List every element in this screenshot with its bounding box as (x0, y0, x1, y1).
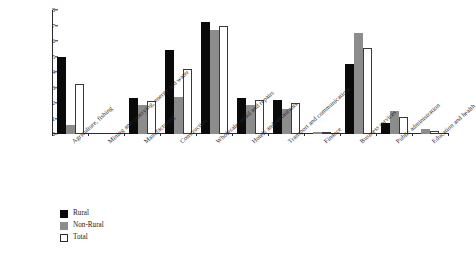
bar-group (124, 10, 160, 134)
bar-group (268, 10, 304, 134)
bar-nonrural (421, 129, 430, 134)
bar-group (232, 10, 268, 134)
bar-total (147, 101, 156, 134)
bar-group (412, 10, 448, 134)
legend-item: Non-Rural (60, 220, 104, 231)
bar-total (255, 100, 264, 134)
bar-total (430, 131, 439, 134)
legend-item: Rural (60, 208, 104, 219)
bar-nonrural (66, 125, 75, 134)
bar-total (363, 48, 372, 134)
bar-nonrural (246, 105, 255, 134)
legend-label: Rural (73, 210, 89, 217)
bar-nonrural (390, 111, 399, 134)
bar-group (376, 10, 412, 134)
legend-label: Total (73, 234, 88, 241)
bar-group (160, 10, 196, 134)
bar-rural (273, 100, 282, 134)
legend-swatch-total (60, 234, 68, 242)
legend-label: Non-Rural (73, 222, 104, 229)
bar-group (304, 10, 340, 134)
bar-total (75, 84, 84, 134)
bar-total (291, 103, 300, 134)
bar-nonrural (282, 109, 291, 134)
bar-rural (201, 22, 210, 134)
bar-group (52, 10, 88, 134)
bar-rural (345, 64, 354, 134)
bar-total (399, 117, 408, 134)
bar-rural (237, 98, 246, 134)
bar-total (183, 69, 192, 134)
legend-swatch-nonrural (60, 222, 68, 230)
bar-group (340, 10, 376, 134)
chart-legend: RuralNon-RuralTotal (60, 208, 104, 244)
bar-nonrural (138, 105, 147, 134)
bar-total (219, 26, 228, 135)
bar-nonrural (174, 97, 183, 134)
legend-swatch-rural (60, 210, 68, 218)
bar-group (196, 10, 232, 134)
bar-total (322, 132, 331, 134)
bar-rural (381, 123, 390, 134)
bar-rural (57, 57, 66, 135)
bar-nonrural (313, 132, 322, 134)
x-tick-mark (448, 133, 449, 136)
bar-nonrural (354, 33, 363, 134)
bar-rural (165, 50, 174, 134)
bar-group (88, 10, 124, 134)
bar-rural (129, 98, 138, 134)
bar-nonrural (210, 30, 219, 134)
legend-item: Total (60, 232, 104, 243)
